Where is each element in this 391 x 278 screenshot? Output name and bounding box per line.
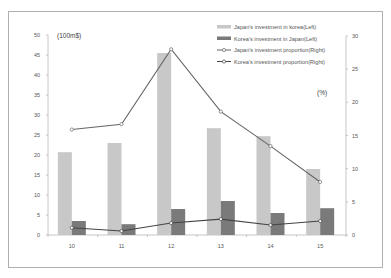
right-tick-label: 20: [352, 99, 358, 105]
left-axis-unit: (100m$): [57, 32, 81, 40]
bar: [58, 152, 72, 235]
x-tick-label: 14: [267, 243, 273, 249]
left-tick-label: 35: [34, 92, 40, 98]
line-marker: [319, 219, 322, 222]
legend-label: Japan's investment proportion(Right): [234, 47, 325, 53]
bar: [306, 169, 320, 235]
x-tick-label: 13: [218, 243, 224, 249]
left-tick-label: 10: [34, 192, 40, 198]
right-tick-label: 10: [352, 166, 358, 172]
legend-label: Korea's investment in Japan(Left): [234, 36, 317, 42]
line-marker: [319, 180, 322, 183]
right-tick-label: 0: [352, 232, 355, 238]
left-tick-label: 5: [37, 212, 40, 218]
bar: [320, 208, 334, 235]
x-tick-label: 15: [317, 243, 323, 249]
line-marker: [170, 221, 173, 224]
left-tick-label: 40: [34, 72, 40, 78]
line-marker: [219, 110, 222, 113]
line-marker: [70, 128, 73, 131]
left-tick-label: 25: [34, 132, 40, 138]
right-tick-label: 30: [352, 33, 358, 39]
x-tick-label: 11: [119, 243, 125, 249]
bar: [157, 53, 171, 235]
left-tick-label: 15: [34, 172, 40, 178]
line-marker: [269, 145, 272, 148]
x-tick-label: 10: [69, 243, 75, 249]
legend-swatch: [217, 37, 231, 41]
right-tick-label: 5: [352, 199, 355, 205]
bar: [257, 136, 271, 235]
bar: [108, 143, 122, 235]
left-tick-label: 45: [34, 52, 40, 58]
legend-label: Korea's investment proportion(Right): [234, 59, 325, 65]
left-tick-label: 20: [34, 152, 40, 158]
line-marker: [120, 123, 123, 126]
bar: [221, 201, 235, 235]
line-marker: [269, 223, 272, 226]
legend-label: Japan's investment in korea(Left): [234, 24, 316, 30]
right-tick-label: 25: [352, 66, 358, 72]
left-tick-label: 50: [34, 32, 40, 38]
right-tick-label: 15: [352, 133, 358, 139]
legend-swatch: [217, 25, 231, 29]
line-marker: [70, 226, 73, 229]
line-marker: [120, 229, 123, 232]
left-tick-label: 30: [34, 112, 40, 118]
line-marker: [170, 48, 173, 51]
left-tick-label: 0: [37, 232, 40, 238]
right-axis-unit: (%): [317, 89, 327, 97]
x-tick-label: 12: [168, 243, 174, 249]
investment-chart: 0510152025303540455005101520253010111213…: [0, 0, 391, 278]
line-marker: [219, 217, 222, 220]
